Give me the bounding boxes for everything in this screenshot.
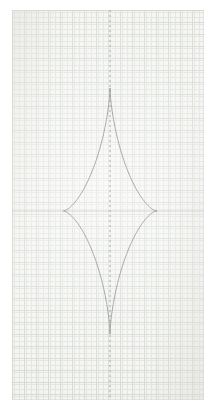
page-root: Astroid curve plotted on graph paper — [0, 0, 216, 412]
plot-canvas — [0, 0, 216, 412]
axes-group — [12, 10, 204, 400]
